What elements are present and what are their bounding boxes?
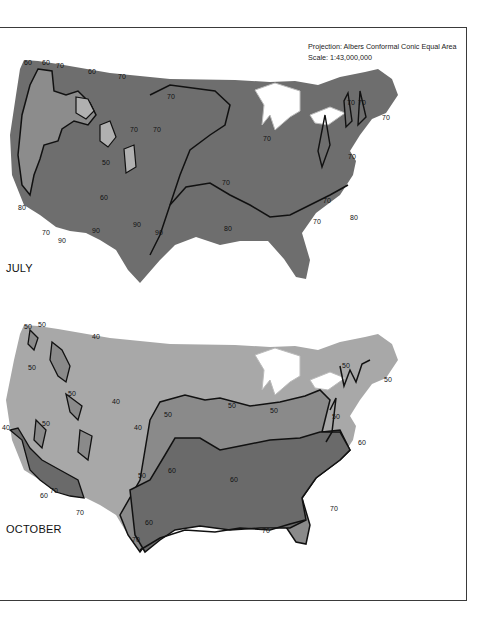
svg-text:60: 60 <box>230 476 238 483</box>
svg-text:70: 70 <box>263 135 271 142</box>
svg-text:70: 70 <box>153 126 161 133</box>
svg-text:70: 70 <box>313 218 321 225</box>
svg-text:60: 60 <box>42 59 50 66</box>
svg-text:50: 50 <box>384 376 392 383</box>
svg-text:40: 40 <box>112 398 120 405</box>
projection-text: Projection: Albers Conformal Conic Equal… <box>308 41 457 52</box>
svg-text:70: 70 <box>348 153 356 160</box>
october-map: 50 50 40 50 50 40 50 50 40 40 50 50 50 5… <box>0 320 420 575</box>
svg-text:90: 90 <box>58 237 66 244</box>
svg-text:50: 50 <box>38 321 46 328</box>
us-outline-july <box>10 60 398 283</box>
svg-text:50: 50 <box>342 362 350 369</box>
svg-text:60: 60 <box>40 492 48 499</box>
svg-text:70: 70 <box>382 114 390 121</box>
svg-text:50: 50 <box>332 413 340 420</box>
svg-text:70: 70 <box>42 229 50 236</box>
svg-text:50: 50 <box>102 159 110 166</box>
svg-text:80: 80 <box>224 225 232 232</box>
svg-text:70: 70 <box>358 99 366 106</box>
svg-text:60: 60 <box>24 59 32 66</box>
svg-text:50: 50 <box>24 323 32 330</box>
svg-text:60: 60 <box>145 519 153 526</box>
svg-text:80: 80 <box>18 204 26 211</box>
svg-text:70: 70 <box>262 527 270 534</box>
svg-text:50: 50 <box>42 420 50 427</box>
svg-text:80: 80 <box>350 214 358 221</box>
svg-text:70: 70 <box>132 536 140 543</box>
svg-text:60: 60 <box>88 68 96 75</box>
svg-text:90: 90 <box>133 221 141 228</box>
svg-text:50: 50 <box>138 472 146 479</box>
svg-text:60: 60 <box>168 467 176 474</box>
svg-text:50: 50 <box>164 411 172 418</box>
july-map: 60 60 70 60 70 70 70 70 70 70 70 70 70 7… <box>0 55 420 285</box>
svg-text:70: 70 <box>130 126 138 133</box>
svg-text:40: 40 <box>92 333 100 340</box>
october-title: OCTOBER <box>6 523 62 535</box>
svg-text:70: 70 <box>118 73 126 80</box>
svg-text:40: 40 <box>2 424 10 431</box>
svg-text:60: 60 <box>100 194 108 201</box>
svg-text:70: 70 <box>323 197 331 204</box>
svg-text:60: 60 <box>358 439 366 446</box>
svg-text:70: 70 <box>167 93 175 100</box>
svg-text:50: 50 <box>270 407 278 414</box>
svg-text:50: 50 <box>228 402 236 409</box>
july-title: JULY <box>6 262 33 274</box>
svg-text:70: 70 <box>222 179 230 186</box>
svg-text:50: 50 <box>28 364 36 371</box>
svg-text:90: 90 <box>155 229 163 236</box>
svg-text:70: 70 <box>347 99 355 106</box>
svg-text:90: 90 <box>92 227 100 234</box>
svg-text:50: 50 <box>68 390 76 397</box>
svg-text:70: 70 <box>50 487 58 494</box>
svg-text:70: 70 <box>56 62 64 69</box>
svg-text:70: 70 <box>76 509 84 516</box>
svg-text:70: 70 <box>330 505 338 512</box>
svg-text:40: 40 <box>134 424 142 431</box>
